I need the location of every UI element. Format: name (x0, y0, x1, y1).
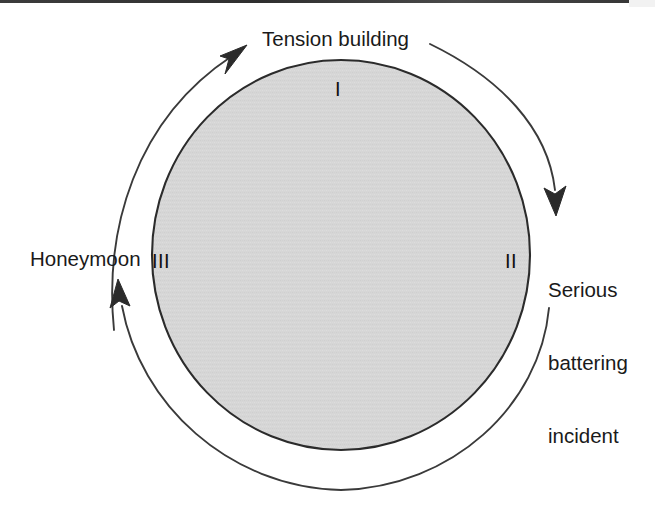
cycle-circle (152, 60, 530, 450)
label-serious-line-2: battering (548, 351, 628, 375)
phase-numeral-one: I (335, 78, 341, 101)
label-serious-battering-incident: Serious battering incident (548, 230, 628, 496)
phase-numeral-three: III (152, 250, 170, 273)
arrowhead-up-right-icon (220, 45, 247, 74)
diagram-canvas: Tension building Serious battering incid… (0, 0, 655, 514)
label-serious-line-3: incident (548, 424, 628, 448)
label-honeymoon: Honeymoon (30, 247, 141, 271)
phase-numeral-two: II (505, 250, 517, 273)
label-serious-line-1: Serious (548, 278, 628, 302)
label-tension-building: Tension building (262, 27, 409, 51)
